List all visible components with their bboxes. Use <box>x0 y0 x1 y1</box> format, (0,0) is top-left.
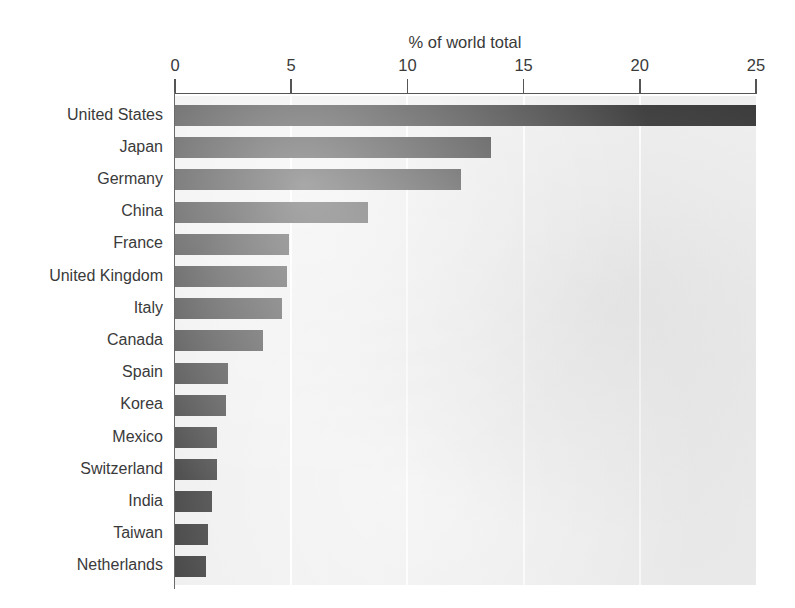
category-label: Netherlands <box>0 556 163 574</box>
category-label: Canada <box>0 331 163 349</box>
category-label: Taiwan <box>0 524 163 542</box>
category-label: Japan <box>0 138 163 156</box>
x-tick-mark <box>523 79 525 93</box>
category-label: Italy <box>0 299 163 317</box>
category-label: Korea <box>0 395 163 413</box>
x-tick-label: 0 <box>170 56 179 75</box>
x-tick-label: 15 <box>514 56 532 75</box>
category-label: France <box>0 234 163 252</box>
bar <box>175 524 208 545</box>
bar <box>175 105 756 126</box>
bar <box>175 363 228 384</box>
x-tick-label: 20 <box>631 56 649 75</box>
bar <box>175 137 491 158</box>
bar <box>175 330 263 351</box>
chart-title: % of world total <box>409 33 522 52</box>
bar <box>175 491 212 512</box>
x-tick-mark <box>755 79 757 93</box>
x-tick-mark <box>407 79 409 93</box>
bar <box>175 459 217 480</box>
x-tick-mark <box>174 79 176 93</box>
category-label: United States <box>0 106 163 124</box>
x-tick-label: 25 <box>747 56 765 75</box>
x-tick-mark <box>639 79 641 93</box>
gridline <box>523 96 525 585</box>
category-label: Germany <box>0 170 163 188</box>
category-label: United Kingdom <box>0 267 163 285</box>
x-tick-mark <box>290 79 292 93</box>
category-label: China <box>0 202 163 220</box>
y-axis-line <box>174 92 176 589</box>
category-label: Spain <box>0 363 163 381</box>
bar <box>175 202 368 223</box>
bar <box>175 234 289 255</box>
plot-area <box>175 96 756 585</box>
x-tick-label: 10 <box>398 56 416 75</box>
bar <box>175 266 287 287</box>
x-tick-label: 5 <box>287 56 296 75</box>
category-label: India <box>0 492 163 510</box>
bar <box>175 395 226 416</box>
bar <box>175 556 206 577</box>
bar <box>175 427 217 448</box>
gridline <box>639 96 641 585</box>
bar <box>175 169 461 190</box>
x-axis-line <box>174 93 757 95</box>
category-label: Switzerland <box>0 460 163 478</box>
bar-chart: % of world total 0510152025 United State… <box>0 0 795 608</box>
bar <box>175 298 282 319</box>
category-label: Mexico <box>0 428 163 446</box>
